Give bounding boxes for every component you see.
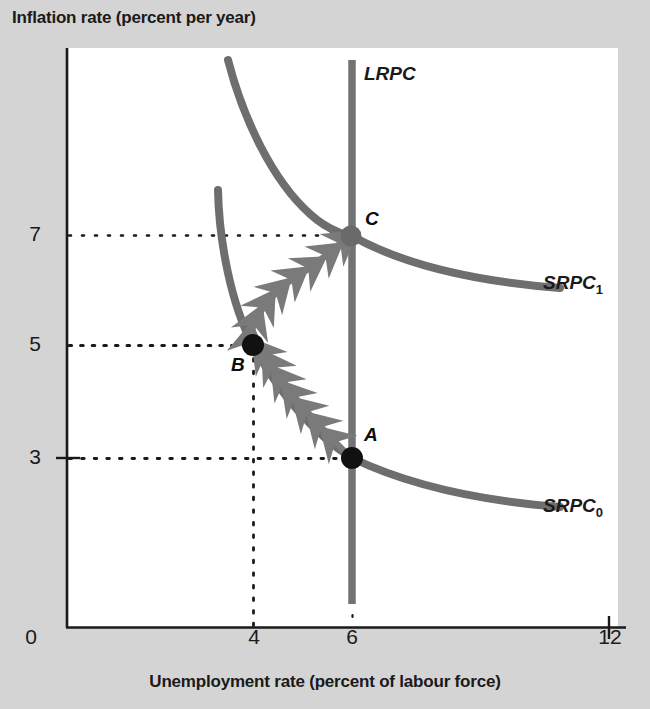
arrow-path-a-to-b (263, 353, 344, 451)
srpc1-curve (228, 60, 560, 288)
y-tick-7: 7 (22, 222, 48, 246)
srpc1-label: SRPC1 (543, 272, 603, 297)
srpc0-label: SRPC0 (543, 495, 603, 520)
data-point-a[interactable] (341, 447, 363, 469)
x-tick-12: 12 (595, 625, 625, 649)
point-label-c: C (365, 208, 379, 230)
point-label-b: B (231, 354, 245, 376)
x-tick-0: 0 (18, 625, 44, 649)
srpc1-label-sub: 1 (596, 282, 603, 297)
srpc1-label-text: SRPC (543, 272, 596, 293)
data-point-c[interactable] (341, 226, 362, 247)
srpc0-curve (218, 190, 560, 507)
y-tick-5: 5 (22, 332, 48, 356)
data-point-b[interactable] (242, 334, 264, 356)
point-label-a: A (364, 424, 378, 446)
phillips-curve-figure (0, 0, 650, 709)
y-tick-3: 3 (22, 445, 48, 469)
srpc0-label-sub: 0 (596, 505, 603, 520)
x-tick-6: 6 (339, 625, 365, 649)
arrow-path-b-to-c (247, 242, 343, 352)
x-tick-4: 4 (241, 625, 267, 649)
dotted-guides (69, 236, 353, 627)
srpc0-label-text: SRPC (543, 495, 596, 516)
axis-lines (56, 48, 626, 639)
lrpc-label: LRPC (364, 63, 416, 85)
